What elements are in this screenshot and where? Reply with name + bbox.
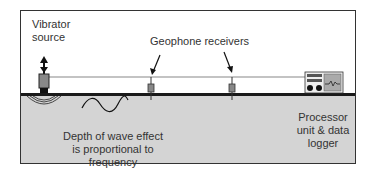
label-line: logger	[290, 137, 356, 150]
label-line: unit & data	[290, 124, 356, 137]
arrow-icon	[224, 52, 233, 73]
geophone-icon	[148, 77, 154, 100]
geophone-icon	[229, 77, 235, 100]
processor-label: Processor unit & data logger	[290, 111, 356, 150]
geophone-receivers-label: Geophone receivers	[150, 35, 249, 48]
wave-icon	[82, 96, 128, 112]
label-line: is proportional to frequency	[48, 143, 178, 169]
processor-unit-icon	[305, 72, 343, 93]
vibrator-source-label: Vibrator source	[32, 18, 70, 44]
label-line: Processor	[290, 111, 356, 124]
depth-label: Depth of wave effect is proportional to …	[48, 130, 178, 169]
arrow-icon	[150, 55, 160, 75]
label-line: Vibrator	[32, 18, 70, 31]
vibrator-source-icon	[27, 56, 61, 104]
label-line: Depth of wave effect	[48, 130, 178, 143]
label-line: source	[32, 31, 70, 44]
